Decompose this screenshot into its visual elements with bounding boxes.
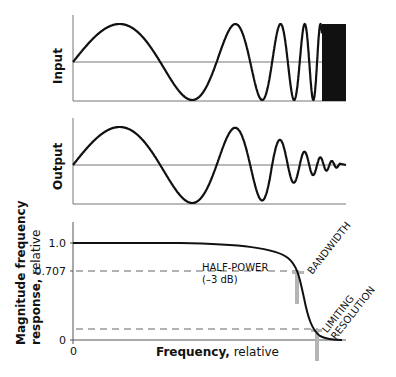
xlabel-light: relative	[230, 345, 279, 359]
output-label: Output	[52, 143, 64, 190]
ytick-0707: 0.707	[20, 265, 66, 278]
response-chart	[70, 222, 346, 361]
xlabel: Frequency, relative	[156, 346, 279, 358]
input-dense-block	[322, 24, 346, 101]
input-panel	[73, 15, 346, 101]
output-panel	[73, 118, 346, 204]
input-label: Input	[52, 48, 64, 84]
half-power-line1: HALF-POWER	[202, 262, 268, 274]
ytick-1: 1.0	[20, 237, 66, 250]
xlabel-bold: Frequency,	[156, 345, 230, 359]
half-power-line2: (–3 dB)	[202, 274, 268, 286]
half-power-label: HALF-POWER (–3 dB)	[202, 262, 268, 286]
xtick-0: 0	[70, 346, 77, 357]
ytick-0: 0	[20, 334, 66, 347]
response-curve	[73, 243, 342, 340]
